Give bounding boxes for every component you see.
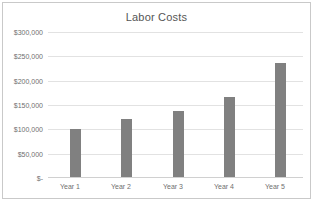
plot-area [48, 32, 303, 178]
y-tick-label: $50,000 [5, 150, 43, 157]
gridline [48, 56, 303, 57]
y-tick-label: $- [5, 175, 43, 182]
bar-year-5[interactable] [275, 63, 286, 177]
bar-year-2[interactable] [121, 119, 132, 177]
bar-year-1[interactable] [70, 129, 81, 177]
x-tick-label-year-2: Year 2 [98, 183, 144, 190]
chart-title: Labor Costs [3, 11, 310, 24]
axis-baseline [48, 177, 303, 178]
x-tick-label-year-4: Year 4 [201, 183, 247, 190]
y-tick-label: $100,000 [5, 126, 43, 133]
y-tick-label: $150,000 [5, 102, 43, 109]
gridline [48, 81, 303, 82]
y-tick-label: $200,000 [5, 77, 43, 84]
gridline [48, 32, 303, 33]
gridline [48, 105, 303, 106]
y-tick-label: $250,000 [5, 53, 43, 60]
bar-year-3[interactable] [173, 111, 184, 177]
x-tick-label-year-5: Year 5 [252, 183, 298, 190]
x-tick-label-year-3: Year 3 [150, 183, 196, 190]
y-tick-label: $300,000 [5, 29, 43, 36]
y-axis: $300,000 $250,000 $200,000 $150,000 $100… [5, 32, 43, 178]
x-tick-label-year-1: Year 1 [47, 183, 93, 190]
bar-year-4[interactable] [224, 97, 235, 177]
chart-frame: Labor Costs $300,000 $250,000 $200,000 $… [2, 2, 311, 199]
